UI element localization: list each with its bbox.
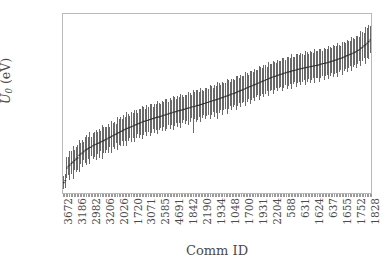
y-axis-subscript: 0: [4, 88, 14, 93]
x-tick-label: 588: [286, 198, 297, 218]
x-tick-label: 1700: [244, 198, 255, 225]
y-axis-label: U0 (eV): [0, 58, 14, 104]
x-tick-label: 1048: [230, 198, 241, 225]
x-tick-label: 1752: [356, 198, 367, 225]
x-axis-tick-labels: 3672318629823206202617203071258546911842…: [62, 198, 372, 242]
x-tick-label: 4691: [174, 198, 185, 225]
x-tick-label: 631: [300, 198, 311, 218]
x-tick-label: 637: [328, 198, 339, 218]
x-tick-label: 2585: [160, 198, 171, 225]
x-tick-label: 1828: [370, 198, 381, 225]
x-tick-label: 3672: [63, 198, 74, 225]
x-tick-label: 1655: [342, 198, 353, 225]
y-axis-symbol: U: [0, 93, 13, 104]
x-axis-minor-ticks: [62, 194, 372, 197]
x-tick-label: 3071: [146, 198, 157, 225]
x-tick-label: 2026: [119, 198, 130, 225]
x-tick-label: 1934: [216, 198, 227, 225]
errorbar-series: [63, 14, 371, 193]
figure-errorbar-chart: U0 (eV) −50−60−70−80−90−100 367231862982…: [0, 0, 386, 266]
x-tick-label: 2982: [91, 198, 102, 225]
x-tick-label: 2204: [272, 198, 283, 225]
x-tick-label: 1624: [314, 198, 325, 225]
y-axis-units: (eV): [0, 58, 13, 84]
x-tick-label: 1931: [258, 198, 269, 225]
x-tick-label: 1842: [188, 198, 199, 225]
x-tick-mark: [371, 194, 372, 197]
x-axis-label: Comm ID: [62, 243, 372, 258]
x-tick-label: 3206: [105, 198, 116, 225]
x-tick-label: 1720: [133, 198, 144, 225]
x-tick-label: 2190: [202, 198, 213, 225]
x-tick-label: 3186: [77, 198, 88, 225]
plot-area: [62, 13, 372, 194]
